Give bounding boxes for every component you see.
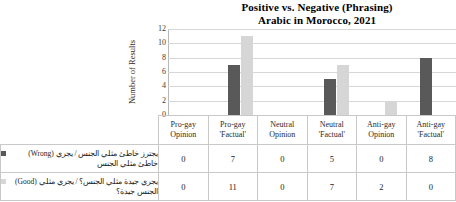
legend-swatch-icon-good	[1, 179, 6, 184]
chart-figure: Positive vs. Negative (Phrasing) Arabic …	[0, 0, 456, 202]
category-header-0-line2: Opinion	[159, 130, 208, 140]
legend-swatch-icon-wrong	[1, 151, 6, 156]
bar-good-1	[241, 36, 253, 115]
legend-label-good-line1: يجري جيدة مثلي الجنس؟ / يجري مثلي	[39, 177, 158, 186]
category-header-4-line2: Opinion	[357, 130, 406, 140]
bar-groups	[168, 29, 456, 115]
category-header-2-line1: Neutral	[258, 120, 307, 130]
legend-label-good: يجري جيدة مثلي الجنس؟ / يجري مثلي (Good)…	[9, 177, 158, 196]
value-wrong-2: 0	[258, 145, 308, 173]
value-wrong-1: 7	[208, 145, 258, 173]
y-axis-label: Number of Results	[127, 29, 139, 115]
table-row: يجترز خاطئ مثلي الجنس / يجري (Wrong) خاط…	[1, 145, 456, 173]
legend-label-wrong: يجترز خاطئ مثلي الجنس / يجري (Wrong) خاط…	[9, 149, 158, 168]
chart-title-line-2: Arabic in Morocco, 2021	[178, 14, 456, 27]
value-good-0: 0	[159, 173, 209, 201]
category-header-2-line2: Opinion	[258, 130, 307, 140]
value-good-1: 11	[208, 173, 258, 201]
bar-group-2	[264, 29, 312, 115]
y-tick-4: 4	[162, 82, 166, 90]
category-header-1: Pro-gay 'Factual'	[208, 116, 258, 145]
y-tick-2: 2	[162, 97, 166, 105]
bar-wrong-3	[324, 79, 336, 115]
legend-label-good-en: (Good)	[15, 177, 37, 186]
legend-item-wrong[interactable]: يجترز خاطئ مثلي الجنس / يجري (Wrong) خاط…	[1, 145, 159, 173]
table-corner-cell	[1, 116, 159, 145]
y-tick-10: 10	[158, 39, 166, 47]
category-header-1-line1: Pro-gay	[209, 120, 258, 130]
category-header-5-line2: 'Factual'	[407, 130, 456, 140]
bar-wrong-5	[420, 58, 432, 115]
bar-good-4	[385, 101, 397, 115]
category-header-4-line1: Anti-gay	[357, 120, 406, 130]
chart-title-line-1: Positive vs. Negative (Phrasing)	[178, 1, 456, 14]
value-good-5: 0	[406, 173, 456, 201]
table-row: يجري جيدة مثلي الجنس؟ / يجري مثلي (Good)…	[1, 173, 456, 201]
category-header-4: Anti-gay Opinion	[357, 116, 407, 145]
category-header-5-line1: Anti-gay	[407, 120, 456, 130]
bar-good-3	[337, 65, 349, 115]
chart-title: Positive vs. Negative (Phrasing) Arabic …	[178, 1, 456, 27]
legend-label-wrong-en: (Wrong)	[28, 149, 54, 158]
legend-item-good[interactable]: يجري جيدة مثلي الجنس؟ / يجري مثلي (Good)…	[1, 173, 159, 201]
category-header-0: Pro-gay Opinion	[159, 116, 209, 145]
value-good-4: 2	[357, 173, 407, 201]
category-header-2: Neutral Opinion	[258, 116, 308, 145]
value-wrong-3: 5	[307, 145, 357, 173]
bar-group-1	[216, 29, 264, 115]
legend-label-wrong-line1: يجترز خاطئ مثلي الجنس / يجري	[56, 149, 158, 158]
plot-area: Number of Results 12 10 8 6 4 2 0	[118, 29, 456, 115]
bar-group-5	[408, 29, 456, 115]
value-wrong-4: 0	[357, 145, 407, 173]
category-header-5: Anti-gay 'Factual'	[406, 116, 456, 145]
category-header-3-line1: Neutral	[308, 120, 357, 130]
y-tick-8: 8	[162, 54, 166, 62]
value-wrong-0: 0	[159, 145, 209, 173]
category-header-3-line2: 'Factual'	[308, 130, 357, 140]
bar-group-3	[312, 29, 360, 115]
bar-wrong-1	[228, 65, 240, 115]
bar-group-4	[360, 29, 408, 115]
y-axis-ticks: 12 10 8 6 4 2 0	[144, 29, 166, 115]
y-tick-6: 6	[162, 68, 166, 76]
y-tick-12: 12	[158, 25, 166, 33]
table-header-row: Pro-gay Opinion Pro-gay 'Factual' Neutra…	[1, 116, 456, 145]
category-header-1-line2: 'Factual'	[209, 130, 258, 140]
bar-group-0	[168, 29, 216, 115]
legend-label-good-line2: الجنس جيدة؟	[116, 187, 158, 196]
legend-label-wrong-line2: خاطئ مثلي الجنس	[97, 159, 158, 168]
data-table: Pro-gay Opinion Pro-gay 'Factual' Neutra…	[0, 115, 456, 201]
value-wrong-5: 8	[406, 145, 456, 173]
plot-axes	[168, 29, 456, 115]
category-header-3: Neutral 'Factual'	[307, 116, 357, 145]
value-good-2: 0	[258, 173, 308, 201]
category-header-0-line1: Pro-gay	[159, 120, 208, 130]
value-good-3: 7	[307, 173, 357, 201]
